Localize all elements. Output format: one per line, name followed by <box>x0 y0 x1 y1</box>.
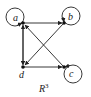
node-c-dot <box>62 65 66 69</box>
edge-b-d <box>25 24 63 65</box>
node-label-d: d <box>19 69 25 80</box>
edge-c-a <box>25 25 63 66</box>
relation-title-base: R <box>38 83 45 94</box>
relation-digraph: a b c d R3 <box>0 0 91 97</box>
relation-title-sup: 3 <box>45 82 49 90</box>
node-label-a: a <box>13 12 18 23</box>
node-label-b: b <box>68 11 73 22</box>
node-a-dot <box>21 21 25 25</box>
node-label-c: c <box>69 68 74 79</box>
node-b-dot <box>62 21 66 25</box>
relation-title: R3 <box>38 82 49 94</box>
